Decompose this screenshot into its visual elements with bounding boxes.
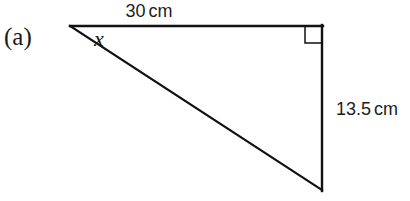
- right-angle-marker-icon: [305, 26, 322, 43]
- right-side-unit: cm: [374, 99, 398, 119]
- right-side-dimension-label: 13.5cm: [336, 99, 398, 119]
- triangle-figure: (a) x 30cm 13.5cm: [0, 0, 410, 201]
- hypotenuse-line: [70, 26, 322, 190]
- top-side-value: 30: [125, 1, 145, 21]
- part-label: (a): [4, 24, 32, 49]
- top-side-dimension-label: 30cm: [0, 1, 410, 21]
- angle-label-x: x: [94, 28, 104, 50]
- top-side-unit: cm: [149, 1, 173, 21]
- right-side-value: 13.5: [336, 99, 371, 119]
